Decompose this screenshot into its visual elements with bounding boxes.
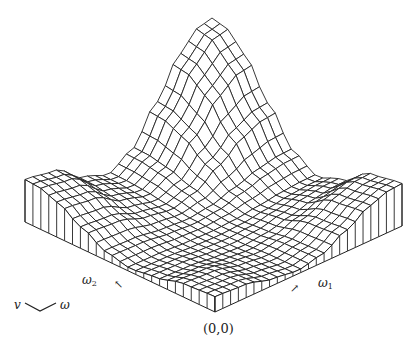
legend-bracket-icon	[24, 300, 58, 314]
omega1-label: ω1	[318, 277, 333, 291]
omega2-arrow-icon: ↖	[114, 279, 123, 290]
legend-v-label: v	[14, 299, 21, 311]
omega2-label: ω2	[82, 274, 97, 288]
origin-label: (0,0)	[203, 321, 234, 336]
legend-omega-label: ω	[60, 299, 70, 311]
omega1-arrow-icon: ↗	[290, 283, 299, 294]
